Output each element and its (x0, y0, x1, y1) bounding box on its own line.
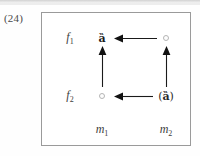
column-label-m1-subscript: 1 (104, 129, 108, 138)
page-canvas: (24) f1 f2 m1 m2 ȁ (ȁ) (0, 0, 200, 156)
example-number: (24) (4, 12, 23, 24)
cell-marker-f1-m1: ȁ (98, 33, 105, 44)
faint-circle-icon (163, 35, 169, 41)
row-label-f2-subscript: 2 (70, 95, 74, 104)
row-label-f2: f2 (66, 88, 73, 104)
arrow-bottom-leftward (114, 92, 154, 101)
scan-artifact-band-secondary (0, 3, 200, 5)
column-label-m1: m1 (96, 122, 109, 138)
arrow-top-leftward (114, 34, 158, 43)
column-label-m1-base: m (96, 122, 105, 136)
paren-close: ) (170, 90, 174, 103)
cell-marker-f2-m1 (99, 93, 105, 99)
row-label-f1: f1 (66, 30, 73, 46)
column-label-m2: m2 (160, 122, 173, 138)
column-label-m2-base: m (160, 122, 169, 136)
row-label-f1-subscript: 1 (70, 37, 74, 46)
arrow-right-upward (162, 46, 171, 88)
diagram-box: f1 f2 m1 m2 ȁ (ȁ) (41, 12, 191, 146)
arrow-left-upward (98, 46, 107, 88)
cell-marker-f1-m2 (163, 35, 169, 41)
column-label-m2-subscript: 2 (168, 129, 172, 138)
faint-circle-icon (99, 93, 105, 99)
cell-marker-f2-m2: (ȁ) (158, 91, 174, 102)
